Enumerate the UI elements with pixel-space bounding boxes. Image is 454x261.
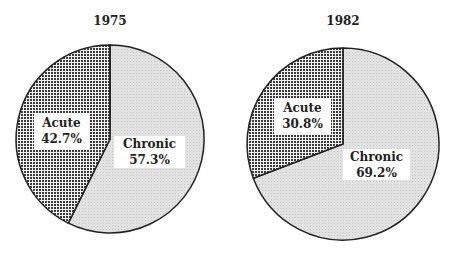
label-chronic-1975: Chronic 57.3% (114, 136, 185, 168)
label-acute-1975-pct: 42.7% (34, 131, 89, 147)
label-acute-1975: Acute 42.7% (34, 113, 89, 149)
label-acute-1975-name: Acute (34, 115, 89, 131)
label-chronic-1982-name: Chronic (343, 149, 410, 165)
label-acute-1982: Acute 30.8% (274, 98, 331, 134)
chart-title-1982: 1982 (303, 14, 383, 28)
label-chronic-1982: Chronic 69.2% (343, 149, 410, 180)
label-acute-1982-pct: 30.8% (274, 116, 331, 132)
label-chronic-1975-name: Chronic (114, 136, 185, 152)
label-chronic-1975-pct: 57.3% (114, 152, 185, 168)
label-chronic-1982-pct: 69.2% (343, 165, 410, 181)
label-acute-1982-name: Acute (274, 100, 331, 116)
chart-title-1975: 1975 (70, 14, 150, 28)
pie-1982 (247, 48, 439, 240)
